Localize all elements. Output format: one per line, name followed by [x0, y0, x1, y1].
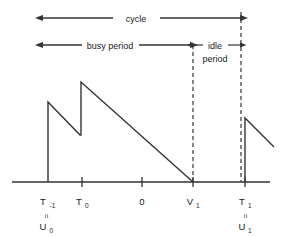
waveform-busy-segment: [48, 82, 193, 182]
diagram-canvas: cycle busy period idle period: [0, 0, 285, 237]
axis-label-t-1-equals: =: [241, 214, 250, 219]
axis-label-t-minus-1-equals: =: [42, 214, 51, 219]
axis-label-v-1-sub: 1: [196, 202, 200, 209]
idle-period-label-line2: period: [202, 54, 227, 64]
axis-label-t-1-sub: 1: [248, 202, 252, 209]
busy-period-span: busy period: [43, 41, 190, 51]
axis-label-t-0-main: T: [76, 196, 82, 207]
axis-label-origin-main: 0: [139, 196, 144, 207]
axis-label-u0-sub: 0: [50, 227, 54, 234]
axis-label-origin: 0: [139, 196, 144, 207]
axis-label-v-1-main: V: [187, 196, 194, 207]
waveform-next-cycle-segment: [245, 118, 274, 182]
axis-label-t-0-sub: 0: [85, 202, 89, 209]
busy-period-label: busy period: [87, 41, 134, 51]
axis-label-t-minus-1-main: T: [40, 196, 46, 207]
idle-period-span: idle period: [193, 41, 240, 65]
axis-label-u0-main: U: [40, 221, 47, 232]
axis-label-t-1-main: T: [239, 196, 245, 207]
idle-period-label-line1: idle: [208, 41, 222, 51]
time-axis: [12, 177, 270, 187]
axis-label-t-minus-1-sub: -1: [50, 202, 56, 209]
cycle-label: cycle: [126, 14, 147, 24]
axis-label-v-1: V 1: [187, 196, 200, 209]
axis-label-t-0: T 0: [76, 196, 89, 209]
workload-waveform: [48, 82, 274, 182]
axis-label-t-minus-1: T -1 = U 0: [40, 196, 56, 234]
workload-cycle-diagram: cycle busy period idle period: [0, 0, 285, 237]
axis-label-t-1: T 1 = U 1: [239, 196, 252, 234]
cycle-span: cycle: [43, 14, 240, 24]
axis-label-u1-main: U: [239, 221, 246, 232]
axis-tick-labels: T -1 = U 0 T 0 0 V 1 T 1: [40, 196, 252, 234]
axis-label-u1-sub: 1: [248, 227, 252, 234]
